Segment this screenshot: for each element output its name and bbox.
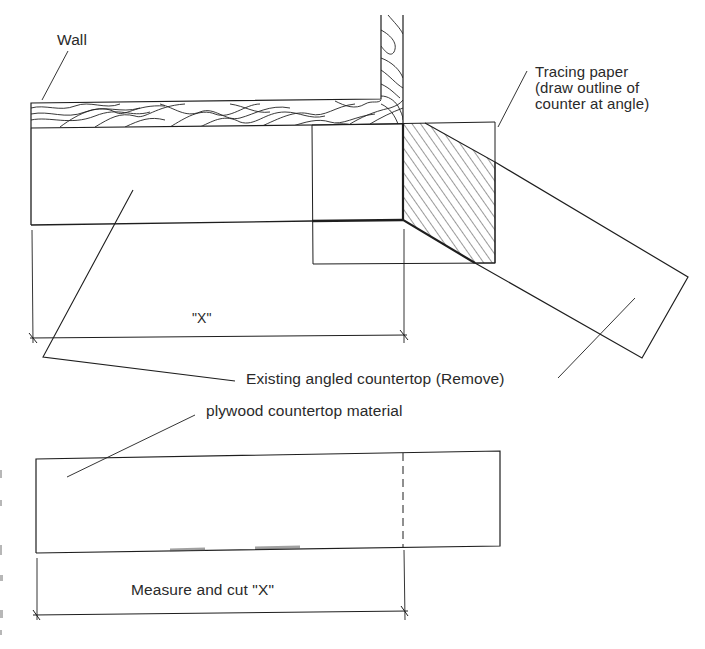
angled-countertop [475, 162, 688, 358]
hatched-overlap-region [403, 123, 495, 263]
tracing-paper-label: Tracing paper (draw outline of counter a… [535, 64, 649, 112]
measure-cut-label: Measure and cut "X" [131, 581, 274, 598]
dimension-x-top [29, 229, 408, 343]
tracing-paper-leader [498, 71, 527, 127]
dimension-x-label: "X" [192, 310, 212, 327]
wall-label: Wall [57, 31, 87, 48]
plywood-panel [36, 451, 500, 553]
wall-leader [42, 51, 68, 100]
page-edge-marks [0, 470, 3, 635]
existing-countertop-leader-left [43, 190, 235, 381]
plywood-leader [67, 415, 195, 477]
existing-straight-counter [31, 124, 403, 225]
existing-countertop-leader-right [558, 298, 635, 378]
plywood-label: plywood countertop material [206, 402, 403, 419]
existing-countertop-label: Existing angled countertop (Remove) [246, 370, 505, 387]
